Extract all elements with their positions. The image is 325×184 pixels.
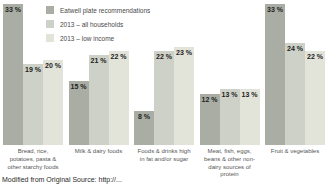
bar-group: 12 %13 %13 % bbox=[200, 89, 260, 145]
bar: 24 % bbox=[285, 43, 305, 145]
bar-value-label: 22 % bbox=[305, 53, 325, 60]
category-label: Meat, fish, eggs, beans & other non-dair… bbox=[200, 148, 260, 179]
bar-value-label: 12 % bbox=[200, 96, 220, 103]
category-label: Fruit & vegetables bbox=[265, 148, 325, 179]
bar-group: 15 %21 %22 % bbox=[69, 51, 129, 145]
bar-value-label: 13 % bbox=[220, 91, 240, 98]
bar-value-label: 33 % bbox=[3, 6, 23, 13]
category-label: Bread, rice, potatoes, pasta & other sta… bbox=[3, 148, 63, 179]
bar-value-label: 19 % bbox=[23, 66, 43, 73]
category-label-text: Bread, rice, potatoes, pasta & other sta… bbox=[5, 148, 61, 171]
bar-value-label: 13 % bbox=[240, 91, 260, 98]
legend-label: Eatwell plate recommendations bbox=[60, 7, 150, 14]
bar: 22 % bbox=[154, 51, 174, 145]
legend-row: 2013 – all households bbox=[46, 20, 150, 28]
bar-value-label: 22 % bbox=[154, 53, 174, 60]
category-label-text: Fruit & vegetables bbox=[271, 148, 319, 156]
bar-value-label: 21 % bbox=[89, 57, 109, 64]
category-label-text: Foods & drinks high in fat and/or sugar bbox=[136, 148, 192, 164]
legend-row: 2013 – low income bbox=[46, 34, 150, 42]
bar-value-label: 20 % bbox=[43, 62, 63, 69]
bar: 13 % bbox=[220, 89, 240, 145]
bar: 15 % bbox=[69, 81, 89, 145]
bar: 33 % bbox=[3, 4, 23, 145]
legend-label: 2013 – low income bbox=[60, 35, 114, 42]
bar-value-label: 22 % bbox=[109, 53, 129, 60]
grouped-bar-chart: Eatwell plate recommendations2013 – all … bbox=[0, 0, 325, 184]
bar-value-label: 8 % bbox=[134, 113, 154, 120]
bar: 20 % bbox=[43, 60, 63, 145]
bar-value-label: 15 % bbox=[69, 83, 89, 90]
category-label-text: Milk & dairy foods bbox=[75, 148, 122, 156]
bar-group: 8 %22 %23 % bbox=[134, 47, 194, 145]
bar: 12 % bbox=[200, 94, 220, 145]
legend-label: 2013 – all households bbox=[60, 21, 123, 28]
bar-value-label: 24 % bbox=[285, 45, 305, 52]
bar: 22 % bbox=[305, 51, 325, 145]
bar: 22 % bbox=[109, 51, 129, 145]
legend-swatch bbox=[46, 6, 54, 14]
bar: 23 % bbox=[174, 47, 194, 145]
chart-legend: Eatwell plate recommendations2013 – all … bbox=[46, 6, 150, 48]
bar-group: 33 %24 %22 % bbox=[265, 4, 325, 145]
source-caption: Modified from Original Source: http://..… bbox=[2, 176, 122, 183]
legend-row: Eatwell plate recommendations bbox=[46, 6, 150, 14]
bar: 19 % bbox=[23, 64, 43, 145]
bar: 21 % bbox=[89, 55, 109, 145]
bar: 33 % bbox=[265, 4, 285, 145]
category-axis: Bread, rice, potatoes, pasta & other sta… bbox=[0, 148, 325, 179]
category-label: Milk & dairy foods bbox=[69, 148, 129, 179]
bar: 8 % bbox=[134, 111, 154, 145]
bar-value-label: 23 % bbox=[174, 49, 194, 56]
legend-swatch bbox=[46, 20, 54, 28]
bar-value-label: 33 % bbox=[265, 6, 285, 13]
bar: 13 % bbox=[240, 89, 260, 145]
category-label: Foods & drinks high in fat and/or sugar bbox=[134, 148, 194, 179]
legend-swatch bbox=[46, 34, 54, 42]
category-label-text: Meat, fish, eggs, beans & other non-dair… bbox=[202, 148, 258, 179]
